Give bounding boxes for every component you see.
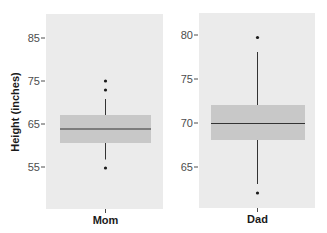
y-axis-title: Height (inches)	[9, 72, 21, 152]
panel-background	[46, 14, 163, 209]
tick-label: 65	[181, 161, 193, 173]
tick-label: 75	[181, 73, 193, 85]
category-label-dad: Dad	[247, 213, 268, 225]
y-axis-mom: 85 75 65 55	[28, 32, 45, 173]
tick-label: 65	[28, 118, 40, 130]
outlier-point	[104, 79, 107, 82]
tick-label: 55	[28, 161, 40, 173]
outlier-point	[256, 36, 259, 39]
chart-canvas: Height (inches) 85 75 65 55 Mom	[0, 0, 327, 233]
panel-dad: 80 75 70 65 Dad	[181, 13, 315, 225]
tick-label: 80	[181, 29, 193, 41]
outlier-point	[256, 191, 259, 194]
tick-label: 85	[28, 32, 40, 44]
box	[211, 105, 305, 140]
tick-label: 70	[181, 117, 193, 129]
category-label-mom: Mom	[93, 214, 119, 226]
outlier-point	[104, 88, 107, 91]
outlier-point	[104, 166, 107, 169]
y-axis-dad: 80 75 70 65	[181, 29, 198, 173]
tick-label: 75	[28, 75, 40, 87]
panel-mom: 85 75 65 55 Mom	[28, 14, 163, 226]
